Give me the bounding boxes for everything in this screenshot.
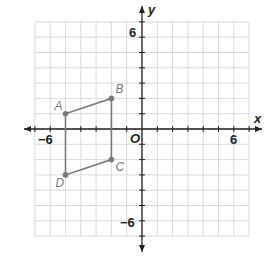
point-label-c: C	[115, 160, 124, 174]
polygon-edges	[66, 98, 112, 174]
x-axis-right-arrow	[255, 126, 262, 132]
y-axis-label: y	[147, 2, 156, 17]
y-tick-label-neg6: −6	[120, 215, 135, 230]
coordinate-plane: x y O −6 6 6 −6 ABCD	[0, 0, 274, 264]
y-axis-top-arrow	[139, 6, 145, 13]
point-label-b: B	[115, 82, 123, 96]
y-axis-bottom-arrow	[139, 245, 145, 252]
point-b	[109, 96, 115, 102]
point-label-a: A	[54, 99, 63, 113]
x-axis-left-arrow	[24, 126, 31, 132]
x-axis-label: x	[253, 111, 262, 126]
point-label-d: D	[56, 176, 65, 190]
point-a	[63, 111, 69, 117]
x-tick-label-neg6: −6	[38, 132, 53, 147]
point-c	[109, 157, 115, 163]
origin-label: O	[130, 131, 140, 146]
y-tick-label-6: 6	[129, 25, 136, 40]
x-tick-label-6: 6	[230, 132, 237, 147]
